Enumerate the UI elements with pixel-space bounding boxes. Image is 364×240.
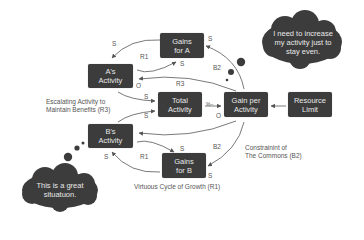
node-gains-for-a-line2: for A xyxy=(174,46,189,55)
arrow-b-activity-to-gains-b xyxy=(137,141,174,152)
thought-text-top-line1: I need to increase xyxy=(268,29,338,38)
thought-text-bottom-line1: This is a great xyxy=(28,181,92,190)
node-gain-per-activity-line2: Activity xyxy=(234,105,258,114)
label-s-a-to-total: S xyxy=(144,93,148,101)
annotation-constraint-line1: Constrainint of xyxy=(245,144,302,152)
node-gains-for-b-line1: Gains xyxy=(174,157,194,166)
thought-dot-top-3 xyxy=(226,79,229,82)
arrow-b-to-total xyxy=(118,111,155,122)
label-loop-r1-bottom: R1 xyxy=(140,153,148,161)
label-o-gpa: O xyxy=(216,112,221,120)
arrow-gpa-to-b-activity xyxy=(139,121,236,135)
annotation-constraint: Constrainint of The Commons (B2) xyxy=(245,144,302,160)
node-gains-for-a: Gains for A xyxy=(160,33,204,58)
node-resource-limit-line2: Limit xyxy=(302,105,318,114)
node-resource-limit-line1: Resource xyxy=(294,96,326,105)
thought-dot-bottom-2 xyxy=(74,145,79,150)
label-s-gpa-to-gains-b: S xyxy=(208,172,212,180)
node-b-activity-line2: Activity xyxy=(99,136,123,145)
label-loop-r1-top: R1 xyxy=(140,53,148,61)
node-a-activity: A's Activity xyxy=(88,64,133,88)
annotation-escalating: Escalating Activity to Maintain Benefits… xyxy=(46,98,110,114)
node-gain-per-activity-line1: Gain per xyxy=(232,96,261,105)
node-resource-limit: Resource Limit xyxy=(288,92,332,117)
thought-dot-bottom-3 xyxy=(82,142,85,145)
thought-text-bottom: This is a great situatuon. xyxy=(28,181,92,199)
thought-text-top: I need to increase my activity just to s… xyxy=(268,29,338,56)
node-total-activity: Total Activity xyxy=(158,92,202,117)
node-total-activity-line1: Total xyxy=(172,96,188,105)
thought-text-top-line3: stay even. xyxy=(268,47,338,56)
annotation-escalating-line1: Escalating Activity to xyxy=(46,98,110,106)
node-a-activity-line1: A's xyxy=(105,67,115,76)
arrow-a-activity-to-gains-a xyxy=(137,62,176,72)
node-a-activity-line2: Activity xyxy=(99,76,123,85)
node-b-activity: B's Activity xyxy=(88,124,133,148)
node-gain-per-activity: Gain per Activity xyxy=(224,92,268,117)
label-delay-mark: %– xyxy=(206,100,213,108)
label-s-gpa-to-gains-a: S xyxy=(208,35,212,43)
annotation-virtuous: Virtuous Cycle of Growth (R1) xyxy=(134,183,220,191)
arrow-a-to-total xyxy=(118,92,155,101)
node-gains-for-a-line1: Gains xyxy=(172,37,192,46)
label-loop-b2-bottom: B2 xyxy=(213,143,221,151)
thought-text-top-line2: my activity just to xyxy=(268,38,338,47)
thought-dot-top-1 xyxy=(237,58,245,66)
node-total-activity-line2: Activity xyxy=(168,105,192,114)
node-gains-for-b: Gains for B xyxy=(162,153,206,178)
label-loop-b2-top: B2 xyxy=(213,64,221,72)
thought-text-bottom-line2: situatuon. xyxy=(28,190,92,199)
arrow-gpa-to-a-activity xyxy=(139,77,236,91)
arrow-gains-b-to-b-activity xyxy=(112,152,160,172)
label-loop-r3: R3 xyxy=(176,80,184,88)
annotation-constraint-line2: The Commons (B2) xyxy=(245,152,302,160)
label-s-gains-b-to-b: S xyxy=(104,153,108,161)
thought-dot-bottom-1 xyxy=(64,153,72,161)
label-o-a-activity: O xyxy=(136,82,141,90)
arrow-gains-a-to-a-activity xyxy=(112,40,160,58)
label-s-a-to-gains-a: S xyxy=(180,60,184,68)
node-gains-for-b-line2: for B xyxy=(176,166,192,175)
annotation-escalating-line2: Maintain Benefits (R3) xyxy=(46,106,110,114)
thought-dot-top-2 xyxy=(228,69,234,75)
label-s-b-to-total: S xyxy=(144,112,148,120)
label-s-b-top: S xyxy=(180,145,184,153)
node-b-activity-line1: B's xyxy=(105,127,115,136)
label-s-gains-a-to-a: S xyxy=(112,40,116,48)
